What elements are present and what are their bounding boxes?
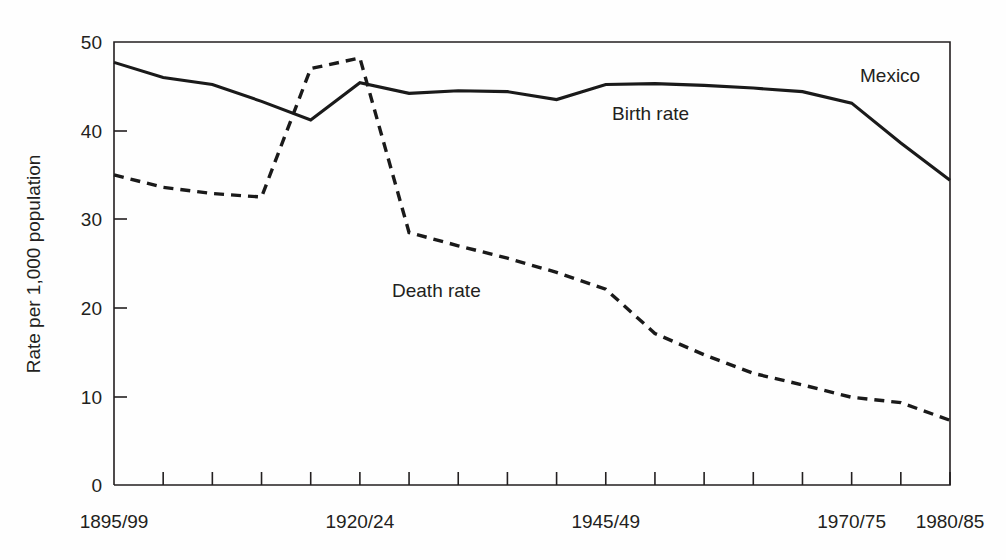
y-tick-label-30: 30 xyxy=(81,209,102,230)
series-line-death-rate xyxy=(114,58,950,420)
death-rate-annotation: Death rate xyxy=(392,280,481,301)
y-tick-label-0: 0 xyxy=(91,475,102,496)
x-tick-label-1895-99: 1895/99 xyxy=(80,511,149,532)
x-tick-label-1945-49: 1945/49 xyxy=(571,511,640,532)
y-tick-label-40: 40 xyxy=(81,121,102,142)
x-axis-ticks xyxy=(163,472,950,485)
x-tick-label-1980-85: 1980/85 xyxy=(916,511,985,532)
mexico-region-annotation: Mexico xyxy=(860,65,920,86)
series-line-birth-rate xyxy=(114,62,950,180)
x-axis-tick-labels: 1895/991920/241945/491970/751980/85 xyxy=(80,511,985,532)
x-tick-label-1920-24: 1920/24 xyxy=(326,511,395,532)
chart-container: 50 40 30 20 10 0 Rate per 1,000 populati… xyxy=(0,0,1006,560)
y-tick-label-20: 20 xyxy=(81,298,102,319)
y-axis-tick-labels: 50 40 30 20 10 0 xyxy=(81,32,102,496)
y-tick-label-50: 50 xyxy=(81,32,102,53)
birth-rate-annotation: Birth rate xyxy=(612,103,689,124)
y-axis-ticks xyxy=(114,131,127,397)
y-tick-label-10: 10 xyxy=(81,387,102,408)
y-axis-title: Rate per 1,000 population xyxy=(23,155,44,374)
x-tick-label-1970-75: 1970/75 xyxy=(817,511,886,532)
line-chart: 50 40 30 20 10 0 Rate per 1,000 populati… xyxy=(0,0,1006,560)
plot-frame xyxy=(114,42,950,485)
